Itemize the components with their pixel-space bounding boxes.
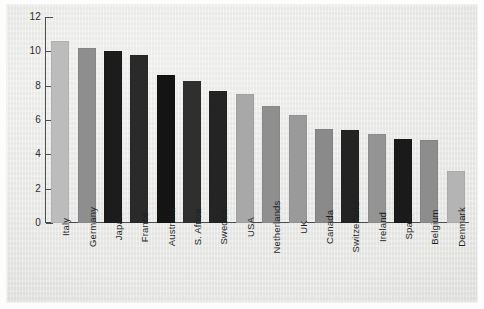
x-label-slot: Sweden xyxy=(205,225,231,301)
x-label-slot: UK xyxy=(284,225,310,301)
x-axis-label: Spain xyxy=(403,214,414,239)
x-axis-label: Ireland xyxy=(377,212,388,242)
bar xyxy=(315,129,333,223)
x-label-slot: Australia xyxy=(153,225,179,301)
bar-chart-plot: 024681012 ItalyGermanyJapanFranceAustral… xyxy=(7,5,477,302)
bar xyxy=(209,91,227,223)
x-axis-label: Italy xyxy=(60,218,71,236)
x-label-slot: Denmark xyxy=(443,225,469,301)
x-label-slot: Germany xyxy=(73,225,99,301)
x-label-slot: Belgium xyxy=(416,225,442,301)
y-tick-label: 6 xyxy=(35,114,41,125)
y-tick-label: 4 xyxy=(35,148,41,159)
bar xyxy=(130,55,148,223)
x-axis-label: Denmark xyxy=(456,207,467,247)
x-label-slot: Canada xyxy=(311,225,337,301)
bar xyxy=(157,75,175,223)
bar xyxy=(51,41,69,223)
x-axis-label: Switzerland xyxy=(350,202,361,253)
x-label-slot: Switzerland xyxy=(337,225,363,301)
y-tick-label: 2 xyxy=(35,183,41,194)
y-tick-label: 0 xyxy=(35,217,41,228)
x-label-slot: Spain xyxy=(390,225,416,301)
x-axis-label: France xyxy=(139,212,150,242)
x-axis-label: Canada xyxy=(324,210,335,244)
x-axis-label: S. Africa xyxy=(192,209,203,246)
bar xyxy=(368,134,386,223)
x-label-slot: France xyxy=(126,225,152,301)
x-label-slot: Ireland xyxy=(364,225,390,301)
bar xyxy=(78,48,96,223)
x-label-slot: USA xyxy=(232,225,258,301)
y-tick-mark xyxy=(46,223,53,224)
bar xyxy=(236,94,254,223)
bar xyxy=(183,81,201,223)
x-label-slot: Netherlands xyxy=(258,225,284,301)
x-axis-label: Australia xyxy=(166,208,177,246)
x-axis-label: Netherlands xyxy=(271,201,282,254)
x-label-slot: Italy xyxy=(47,225,73,301)
bar-series xyxy=(47,17,469,223)
bar xyxy=(394,139,412,223)
x-label-slot: S. Africa xyxy=(179,225,205,301)
y-tick: 0 xyxy=(45,223,53,224)
x-axis-label: Germany xyxy=(87,207,98,247)
bar xyxy=(289,115,307,223)
x-axis-label: Sweden xyxy=(218,209,229,244)
x-axis-labels: ItalyGermanyJapanFranceAustraliaS. Afric… xyxy=(47,225,469,301)
y-tick-label: 8 xyxy=(35,80,41,91)
y-tick-label: 12 xyxy=(29,11,41,22)
x-label-slot: Japan xyxy=(100,225,126,301)
x-axis-label: Belgium xyxy=(429,209,440,244)
x-axis-label: Japan xyxy=(113,214,124,241)
chart-page: 024681012 ItalyGermanyJapanFranceAustral… xyxy=(0,0,484,309)
x-axis-label: UK xyxy=(298,220,309,234)
scanned-paper-panel: 024681012 ItalyGermanyJapanFranceAustral… xyxy=(7,5,477,302)
y-tick-label: 10 xyxy=(29,45,41,56)
x-axis-label: USA xyxy=(245,217,256,237)
bar xyxy=(104,51,122,223)
